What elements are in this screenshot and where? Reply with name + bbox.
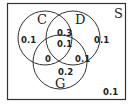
region-c-d-g: 0.1 xyxy=(57,39,72,49)
set-label-c: C xyxy=(37,12,47,27)
region-outside: 0.1 xyxy=(103,87,118,97)
universe-rectangle xyxy=(8,4,126,100)
venn-diagram: S C D G 0.1 0.1 0.3 0.1 0 0.1 0.2 0.1 xyxy=(0,0,130,107)
region-d-and-g-only: 0.1 xyxy=(75,54,90,64)
region-g-only: 0.2 xyxy=(58,67,73,77)
region-c-only: 0.1 xyxy=(21,35,36,45)
universe-label: S xyxy=(114,6,123,21)
region-c-and-g-only: 0 xyxy=(45,54,51,64)
region-c-and-d-only: 0.3 xyxy=(57,28,72,38)
region-d-only: 0.1 xyxy=(94,35,109,45)
set-label-d: D xyxy=(75,12,85,27)
set-label-g: G xyxy=(55,76,65,91)
